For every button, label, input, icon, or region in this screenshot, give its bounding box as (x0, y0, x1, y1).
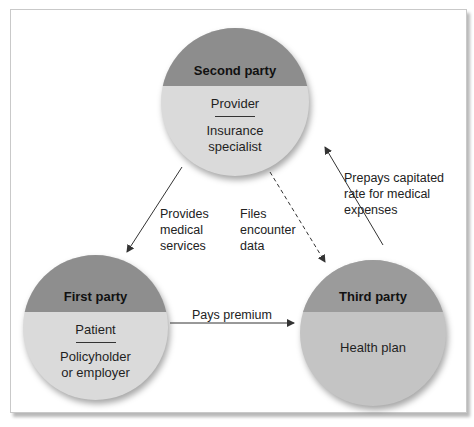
provides-label: Provides medical services (160, 206, 209, 254)
prepays-label: Prepays capitated rate for medical expen… (344, 170, 444, 218)
pays-label: Pays premium (192, 307, 272, 323)
files-label: Files encounter data (240, 206, 296, 254)
